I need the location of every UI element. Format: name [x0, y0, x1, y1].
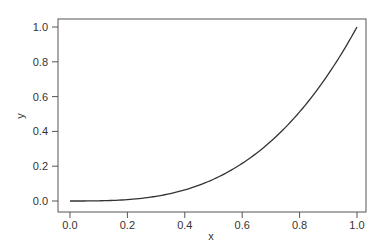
x-tick-label: 0.8: [292, 219, 307, 231]
x-tick-label: 0.4: [177, 219, 192, 231]
y-axis: 0.00.20.40.60.81.0: [33, 21, 58, 207]
y-tick-label: 0.0: [33, 195, 48, 207]
y-tick-label: 1.0: [33, 21, 48, 33]
x-tick-label: 0.0: [62, 219, 77, 231]
y-tick-label: 0.8: [33, 56, 48, 68]
line-chart: 0.00.20.40.60.81.0 0.00.20.40.60.81.0 x …: [0, 0, 386, 250]
x-tick-label: 1.0: [349, 219, 364, 231]
y-tick-label: 0.6: [33, 91, 48, 103]
data-line: [70, 27, 357, 201]
x-axis: 0.00.20.40.60.81.0: [62, 212, 364, 231]
x-tick-label: 0.6: [235, 219, 250, 231]
y-tick-label: 0.4: [33, 125, 48, 137]
x-axis-label: x: [208, 230, 214, 242]
plot-frame: [58, 19, 366, 212]
y-tick-label: 0.2: [33, 160, 48, 172]
x-tick-label: 0.2: [120, 219, 135, 231]
y-axis-label: y: [14, 113, 26, 119]
